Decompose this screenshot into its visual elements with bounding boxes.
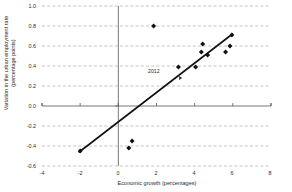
gridlines [42,6,271,166]
data-point [205,53,210,58]
x-tick-label-7: 8 [262,170,278,176]
x-tick-label-1: -4 [34,170,50,176]
data-point [151,24,156,29]
y-tick-label-8: -0.4 [14,143,36,149]
data-point [223,50,228,55]
y-tick-label-6: 0.0 [14,103,36,109]
y-tick-label-3: 0.6 [14,43,36,49]
data-point [193,65,198,70]
x-axis-title: Economic growth (percentages) [42,180,272,186]
plot-canvas [0,0,292,192]
data-point [199,50,204,55]
annotation-2012: 2012 [148,68,160,74]
annotation-caret [179,76,182,80]
x-tick-label-4: 2 [148,170,164,176]
data-point [227,44,232,49]
data-point [130,139,135,144]
data-points [78,24,235,154]
y-tick-label-7: -0.2 [14,123,36,129]
y-tick-label-4: 0.4 [14,63,36,69]
x-tick-label-3: 0 [110,170,126,176]
trendline-path [79,34,232,152]
y-tick-label-9: -0.6 [14,163,36,169]
annotation-caret-icon [179,76,182,80]
y-tick-label-2: 0.8 [14,23,36,29]
y-tick-label-5: 0.2 [14,83,36,89]
y-axis-title-line1: Variation in the urban employment rate [3,0,10,133]
x-tick-label-6: 6 [224,170,240,176]
data-point [176,65,181,70]
chart-figure: Variation in the urban employment rate (… [0,0,292,192]
trendline [79,34,232,152]
x-tick-label-5: 4 [186,170,202,176]
y-tick-label-1: 1.0 [14,3,36,9]
x-tick-label-2: -2 [72,170,88,176]
